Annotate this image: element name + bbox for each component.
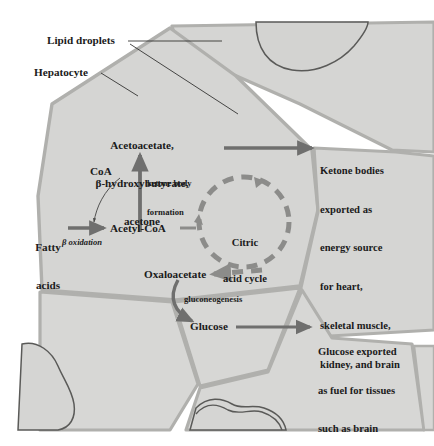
process-label-beta-oxidation: β oxidation <box>62 238 102 248</box>
ketone-export-line-3: energy source <box>320 242 434 255</box>
glucose-export-line-3: such as brain <box>318 423 434 436</box>
process-label-gluconeogenesis: gluconeogenesis <box>184 295 242 305</box>
ketone-export-line-4: for heart, <box>320 281 434 294</box>
metabolite-label-glucose: Glucose <box>190 320 228 333</box>
metabolite-label-oxaloacetate: Oxaloacetate <box>144 268 206 281</box>
ketone-export-line-1: Ketone bodies <box>320 165 434 178</box>
glucose-export-line-1: Glucose exported <box>318 346 434 359</box>
callout-label-hepatocyte: Hepatocyte <box>34 66 88 79</box>
ketone-body-formation-line-2: formation <box>147 208 192 218</box>
metabolite-label-coa: CoA <box>90 165 112 178</box>
callout-label-lipid-droplets: Lipid droplets <box>47 34 115 47</box>
ketone-body-formation-line-1: ketone body <box>147 179 192 189</box>
ketone-bodies-line-1: Acetoacetate, <box>78 139 206 152</box>
ketone-export-line-2: exported as <box>320 204 434 217</box>
fatty-acids-line-2: acids <box>28 279 68 292</box>
hepatocyte-metabolism-figure: Lipid droplets Hepatocyte Acetoacetate, … <box>0 0 434 446</box>
citric-acid-cycle-line-1: Citric <box>214 237 276 249</box>
export-note-glucose: Glucose exported as fuel for tissues suc… <box>318 320 434 446</box>
metabolite-label-fatty-acids: Fatty acids <box>28 215 68 317</box>
glucose-export-line-2: as fuel for tissues <box>318 385 434 398</box>
metabolite-label-acetyl-coa: Acetyl-CoA <box>110 222 166 235</box>
citric-acid-cycle-line-2: acid cycle <box>214 273 276 285</box>
